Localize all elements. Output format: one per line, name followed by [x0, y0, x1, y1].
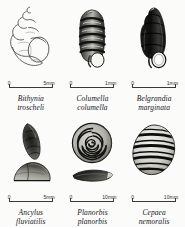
- species-caption-belgrandia-marginata: Belgrandia marginata: [137, 94, 172, 112]
- specimen-cell-planorbis-planorbis: 0 10mm Planorbis planorbis: [62, 114, 124, 228]
- specimen-cell-columella-columella: 0 1mm Columella columella: [62, 0, 124, 114]
- scale-bar-planorbis-planorbis: 0 10mm: [68, 191, 116, 203]
- species-name: marginata: [137, 103, 172, 112]
- scale-bar-bithynia-troscheli: 0 5mm: [7, 77, 55, 89]
- species-caption-planorbis-planorbis: Planorbis planorbis: [77, 208, 108, 226]
- shell-illustration-belgrandia-marginata: [123, 2, 185, 76]
- genus-name: Columella: [76, 94, 108, 103]
- genus-name: Ancylus: [16, 208, 45, 217]
- specimen-cell-bithynia-troscheli: 0 5mm Bithynia troscheli: [0, 0, 62, 114]
- shell-identification-plate: 0 5mm Bithynia troscheli: [0, 0, 185, 227]
- shell-illustration-bithynia-troscheli: [0, 2, 62, 76]
- scale-unit-label: 5mm: [43, 80, 54, 86]
- scale-bar-ancylus-fluviatilis: 0 5mm: [7, 191, 55, 203]
- specimen-cell-cepaea-nemoralis: 0 10mm Cepaea nemoralis: [123, 114, 185, 228]
- species-caption-bithynia-troscheli: Bithynia troscheli: [17, 94, 44, 112]
- species-name: fluviatilis: [16, 217, 45, 226]
- scale-rule-line: [9, 87, 53, 88]
- scale-rule-line: [132, 87, 176, 88]
- species-name: nemoralis: [139, 217, 170, 226]
- specimen-cell-ancylus-fluviatilis: 0 5mm Ancylus fluviatilis: [0, 114, 62, 228]
- species-caption-cepaea-nemoralis: Cepaea nemoralis: [139, 208, 170, 226]
- genus-name: Belgrandia: [137, 94, 172, 103]
- scale-rule-line: [70, 201, 114, 202]
- scale-bar-belgrandia-marginata: 0 1mm: [130, 77, 178, 89]
- shell-illustration-ancylus-fluviatilis: [0, 116, 62, 190]
- scale-bar-cepaea-nemoralis: 0 10mm: [130, 191, 178, 203]
- genus-name: Cepaea: [139, 208, 170, 217]
- shell-illustration-columella-columella: [62, 2, 124, 76]
- scale-unit-label: 1mm: [167, 80, 178, 86]
- scale-unit-label: 5mm: [43, 194, 54, 200]
- specimen-grid: 0 5mm Bithynia troscheli: [0, 0, 185, 227]
- species-caption-ancylus-fluviatilis: Ancylus fluviatilis: [16, 208, 45, 226]
- scale-rule-line: [9, 201, 53, 202]
- species-caption-columella-columella: Columella columella: [76, 94, 108, 112]
- genus-name: Bithynia: [17, 94, 44, 103]
- species-name: planorbis: [77, 217, 108, 226]
- scale-bar-columella-columella: 0 1mm: [68, 77, 116, 89]
- scale-rule-line: [70, 87, 114, 88]
- species-name: columella: [76, 103, 108, 112]
- species-name: troscheli: [17, 103, 44, 112]
- genus-name: Planorbis: [77, 208, 108, 217]
- shell-illustration-cepaea-nemoralis: [123, 116, 185, 190]
- shell-illustration-planorbis-planorbis: [62, 116, 124, 190]
- scale-unit-label: 1mm: [105, 80, 116, 86]
- specimen-cell-belgrandia-marginata: 0 1mm Belgrandia marginata: [123, 0, 185, 114]
- scale-rule-line: [132, 201, 176, 202]
